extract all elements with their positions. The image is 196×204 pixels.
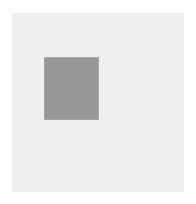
gray-filled-rectangle bbox=[45, 58, 98, 119]
light-backing-panel bbox=[12, 13, 184, 192]
image-canvas bbox=[0, 0, 196, 204]
